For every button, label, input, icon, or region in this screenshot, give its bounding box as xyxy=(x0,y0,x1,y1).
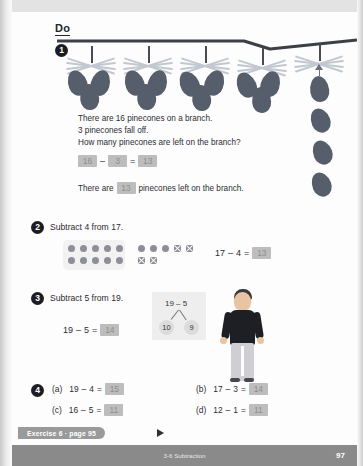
problem-4d-answer[interactable]: 11 xyxy=(249,404,268,416)
section-heading-do: Do xyxy=(55,22,70,36)
problem-3-operand-a: 19 xyxy=(63,325,73,335)
problem-4b-label: (b) xyxy=(196,384,206,394)
problem-4a-operand-a: 19 xyxy=(69,384,78,394)
counter-dot xyxy=(92,257,99,264)
leg-gap xyxy=(241,346,244,376)
question-number-4: 4 xyxy=(31,384,44,397)
question-number-2: 2 xyxy=(31,221,44,234)
problem-4c-operator: – xyxy=(81,405,86,415)
problem-1-operand-b[interactable]: 3 xyxy=(108,155,127,167)
student-figure-illustration xyxy=(212,288,272,373)
problem-1-sentence-before: There are xyxy=(78,184,114,193)
problem-2-operand-b: 4 xyxy=(236,248,241,258)
problem-4d-operator: – xyxy=(226,405,231,415)
pinecone-icon xyxy=(308,75,330,103)
ten-frame-right-row-2 xyxy=(138,257,157,264)
number-bond-leg-left xyxy=(171,310,179,320)
footer-chapter-title: 3-6 Subtraction xyxy=(164,452,206,459)
problem-3-operator: – xyxy=(76,325,81,335)
counter-dot xyxy=(68,245,75,252)
problem-1-answer[interactable]: 13 xyxy=(138,155,157,167)
number-bond-part-right[interactable]: 9 xyxy=(184,320,199,335)
number-bond-leg-right xyxy=(179,310,187,321)
counter-dot xyxy=(116,257,123,264)
problem-4d-operand-a: 12 xyxy=(213,405,222,415)
workbook-page: Do 1 There are 16 pinecones on a branch.… xyxy=(0,0,363,466)
counter-dot-crossed xyxy=(138,257,145,264)
page-footer: 3-6 Subtraction 97 xyxy=(12,445,357,466)
problem-1-operand-a[interactable]: 16 xyxy=(78,155,97,167)
ten-frame-left-row-1 xyxy=(68,245,123,252)
problem-4c-equals: = xyxy=(96,405,101,415)
problem-1-sentence-after: pinecones left on the branch. xyxy=(139,184,244,193)
pinecone-cluster xyxy=(117,46,179,106)
counter-dot xyxy=(80,257,87,264)
problem-4c-operand-b: 5 xyxy=(89,405,94,415)
page-top-edge xyxy=(0,0,363,12)
page-left-edge xyxy=(0,0,12,466)
counter-dot xyxy=(80,245,87,252)
counter-dot xyxy=(138,245,145,252)
shoe-right-icon xyxy=(244,378,254,382)
problem-4d-operand-b: 1 xyxy=(233,405,238,415)
falling-pinecone-icon xyxy=(309,137,336,167)
problem-2-equals: = xyxy=(244,248,249,258)
problem-4a-operand-b: 4 xyxy=(89,384,94,394)
problem-4a: (a) 19 – 4 = 15 xyxy=(52,383,124,395)
ten-frame-left-row-2 xyxy=(68,257,123,264)
problem-4b-operator: – xyxy=(226,384,231,394)
number-bond-part-left[interactable]: 10 xyxy=(159,320,174,335)
problem-1-line-3: How many pinecones are left on the branc… xyxy=(78,137,240,149)
problem-4c-answer[interactable]: 11 xyxy=(104,404,123,416)
problem-2-prompt: Subtract 4 from 17. xyxy=(50,221,123,233)
hand-left-icon xyxy=(220,337,227,344)
counter-dot xyxy=(68,257,75,264)
ten-frame-right-row-1 xyxy=(138,245,193,252)
problem-2-equation: 17 – 4 = 13 xyxy=(215,247,271,259)
counter-dot-crossed xyxy=(150,257,157,264)
problem-3-prompt: Subtract 5 from 19. xyxy=(50,292,123,304)
shoe-left-icon xyxy=(230,378,240,382)
pinecone-cluster xyxy=(174,46,236,106)
problem-3-equals: = xyxy=(92,325,97,335)
problem-1-equals: = xyxy=(130,156,135,166)
exercise-reference-label: Exercise 6 · page 95 xyxy=(18,430,105,437)
exercise-arrow-icon xyxy=(157,429,164,437)
drop-arrow-head-icon xyxy=(315,64,323,70)
problem-3-answer[interactable]: 14 xyxy=(100,324,119,336)
page-right-edge xyxy=(357,0,363,466)
hand-right-icon xyxy=(257,337,264,344)
problem-2-answer[interactable]: 13 xyxy=(252,247,271,259)
problem-4d-label: (d) xyxy=(196,405,206,415)
problem-4b-operand-b: 3 xyxy=(233,384,238,394)
counter-dot xyxy=(92,245,99,252)
exercise-reference-bar[interactable]: Exercise 6 · page 95 xyxy=(18,427,105,439)
problem-4c-operand-a: 16 xyxy=(69,405,78,415)
problem-4c: (c) 16 – 5 = 11 xyxy=(52,404,123,416)
counter-dot-crossed xyxy=(186,245,193,252)
problem-4a-operator: – xyxy=(82,384,87,394)
problem-3-equation: 19 – 5 = 14 xyxy=(63,324,119,336)
question-number-3: 3 xyxy=(31,292,44,305)
problem-4d: (d) 12 – 1 = 11 xyxy=(196,404,268,416)
problem-4b-operand-a: 17 xyxy=(213,384,222,394)
problem-4a-label: (a) xyxy=(52,384,62,394)
number-bond-total: 19 – 5 xyxy=(165,299,187,308)
problem-4b: (b) 17 – 3 = 14 xyxy=(196,383,268,395)
problem-1-equation: 16 – 3 = 13 xyxy=(78,155,157,167)
problem-4b-answer[interactable]: 14 xyxy=(249,383,268,395)
problem-4a-answer[interactable]: 15 xyxy=(105,383,124,395)
head-icon xyxy=(234,292,251,311)
problem-1-line-2: 3 pinecones fall off. xyxy=(78,125,148,137)
problem-1-sentence: There are 13 pinecones left on the branc… xyxy=(78,182,244,194)
counter-dot-crossed xyxy=(174,245,181,252)
problem-4a-equals: = xyxy=(97,384,102,394)
problem-1-operator: – xyxy=(100,156,105,166)
falling-pinecone-icon xyxy=(307,105,334,135)
problem-1-sentence-answer[interactable]: 13 xyxy=(117,182,136,194)
question-number-1: 1 xyxy=(55,44,68,57)
problem-3-operand-b: 5 xyxy=(84,325,89,335)
pinecone-cluster xyxy=(60,46,122,106)
counter-dot xyxy=(150,245,157,252)
problem-2-operator: – xyxy=(228,248,233,258)
